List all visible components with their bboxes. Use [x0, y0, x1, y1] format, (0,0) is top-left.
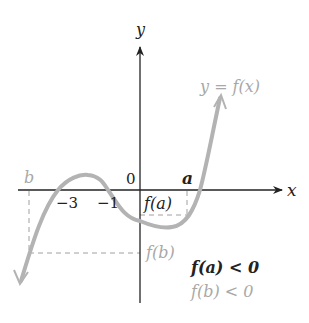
- fa-statement: f(a) < 0: [191, 260, 259, 276]
- tick-label-neg3: −3: [56, 196, 78, 211]
- a-label: a: [182, 170, 193, 187]
- fa-label: f(a): [144, 196, 172, 212]
- graph-svg: [0, 0, 309, 323]
- function-graph-diagram: y x 0 −3 −1 b a f(a) f(b) y = f(x) f(a) …: [0, 0, 309, 323]
- curve-label: y = f(x): [200, 79, 260, 95]
- fb-statement: f(b) < 0: [191, 284, 253, 300]
- tick-label-neg1: −1: [97, 196, 119, 211]
- x-axis-label: x: [287, 182, 297, 199]
- b-label: b: [24, 170, 34, 186]
- fb-label: f(b): [146, 245, 175, 261]
- origin-label: 0: [126, 172, 136, 187]
- y-axis-label: y: [136, 22, 145, 38]
